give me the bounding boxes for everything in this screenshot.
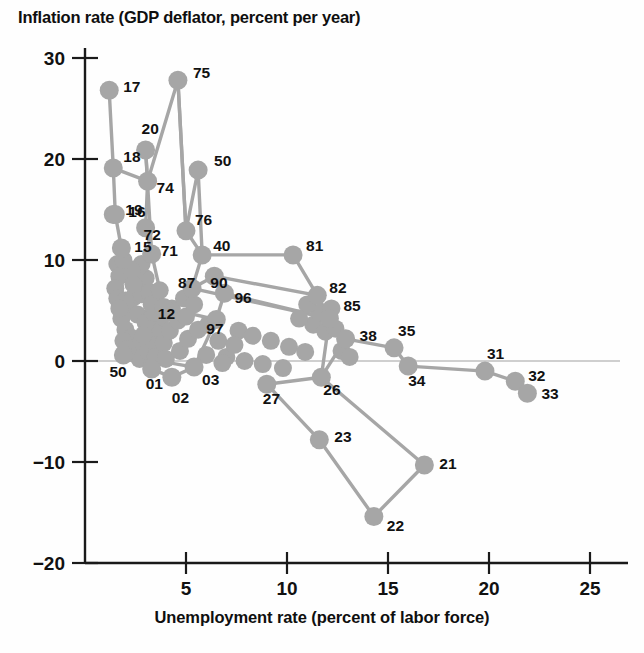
point-label: 12 xyxy=(158,305,175,322)
connector-line xyxy=(146,80,199,231)
data-point[interactable] xyxy=(177,221,196,240)
data-point[interactable] xyxy=(100,81,119,100)
data-point xyxy=(185,295,203,313)
data-point[interactable] xyxy=(310,430,329,449)
y-tick-label: −20 xyxy=(33,553,65,574)
point-label: 74 xyxy=(157,179,175,196)
data-point[interactable] xyxy=(385,338,404,357)
point-label: 32 xyxy=(528,367,545,384)
x-tick-label: 25 xyxy=(579,578,601,599)
point-label: 17 xyxy=(123,78,140,95)
point-label: 50 xyxy=(214,152,231,169)
data-point[interactable] xyxy=(475,362,494,381)
data-point[interactable] xyxy=(415,456,434,475)
x-axis-title: Unemployment rate (percent of labor forc… xyxy=(0,608,644,627)
y-tick-label: 0 xyxy=(54,351,65,372)
data-point xyxy=(262,332,280,350)
data-point xyxy=(280,338,298,356)
point-label: 35 xyxy=(398,322,416,339)
series-data-points xyxy=(100,71,537,526)
data-point[interactable] xyxy=(106,205,125,224)
point-label: 75 xyxy=(193,64,211,81)
data-point xyxy=(225,336,243,354)
point-label: 50 xyxy=(109,363,126,380)
data-point[interactable] xyxy=(193,245,212,264)
data-point xyxy=(290,310,308,328)
y-tick-label: −10 xyxy=(33,452,65,473)
data-point[interactable] xyxy=(112,238,131,257)
point-label: 26 xyxy=(323,381,341,398)
data-point xyxy=(110,299,128,317)
x-axis-tick-labels: 510152025 xyxy=(181,578,601,599)
point-label: 16 xyxy=(128,203,146,220)
data-point xyxy=(135,326,153,344)
point-label: 20 xyxy=(142,120,159,137)
y-tick-label: 30 xyxy=(44,48,65,69)
y-axis-tick-labels: 3020100−10−20 xyxy=(33,48,65,574)
data-point[interactable] xyxy=(189,161,208,180)
point-label: 85 xyxy=(343,297,361,314)
point-label: 96 xyxy=(234,289,252,306)
data-point xyxy=(236,352,254,370)
data-point[interactable] xyxy=(104,159,123,178)
data-point xyxy=(213,354,231,372)
point-label: 03 xyxy=(202,371,220,388)
data-point[interactable] xyxy=(336,329,355,348)
connector-line xyxy=(267,377,425,516)
scatter-plot: 3020100−10−20 510152025 1718191615207472… xyxy=(0,0,644,653)
data-point[interactable] xyxy=(168,71,187,90)
x-tick-label: 5 xyxy=(181,578,192,599)
point-label: 27 xyxy=(263,390,280,407)
point-label: 01 xyxy=(146,375,164,392)
y-tick-label: 10 xyxy=(44,250,65,271)
point-label: 38 xyxy=(360,327,378,344)
point-label: 02 xyxy=(172,389,189,406)
data-point[interactable] xyxy=(308,286,327,305)
data-point[interactable] xyxy=(284,245,303,264)
point-label: 82 xyxy=(329,279,346,296)
data-point xyxy=(274,359,292,377)
data-point[interactable] xyxy=(364,507,383,526)
point-label: 23 xyxy=(334,428,352,445)
data-point[interactable] xyxy=(320,309,339,328)
data-point[interactable] xyxy=(518,384,537,403)
data-point xyxy=(341,348,359,366)
point-label: 71 xyxy=(161,242,179,259)
point-label: 40 xyxy=(213,237,230,254)
x-tick-label: 20 xyxy=(478,578,499,599)
data-point[interactable] xyxy=(138,172,157,191)
point-label: 87 xyxy=(178,274,195,291)
point-label: 21 xyxy=(439,455,457,472)
point-label: 76 xyxy=(195,211,213,228)
data-point xyxy=(244,327,262,345)
x-tick-label: 15 xyxy=(377,578,399,599)
data-point[interactable] xyxy=(114,345,133,364)
point-label: 33 xyxy=(541,385,559,402)
point-label: 72 xyxy=(144,226,161,243)
point-label: 31 xyxy=(487,345,505,362)
y-tick-label: 20 xyxy=(44,149,65,170)
data-point xyxy=(151,281,169,299)
data-point xyxy=(254,355,272,373)
chart-figure: Inflation rate (GDP deflator, percent pe… xyxy=(0,0,644,653)
point-label: 81 xyxy=(306,237,324,254)
point-label: 34 xyxy=(408,372,426,389)
point-label: 18 xyxy=(123,148,141,165)
data-point[interactable] xyxy=(162,368,181,387)
point-label: 22 xyxy=(387,517,404,534)
point-label: 97 xyxy=(206,320,223,337)
data-point[interactable] xyxy=(185,358,204,377)
point-label: 90 xyxy=(210,274,227,291)
data-point xyxy=(296,343,314,361)
x-tick-label: 10 xyxy=(276,578,297,599)
